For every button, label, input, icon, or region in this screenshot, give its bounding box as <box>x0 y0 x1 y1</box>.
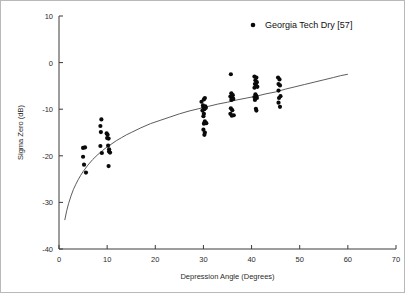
data-point <box>230 114 234 118</box>
legend-label: Georgia Tech Dry [57] <box>265 20 352 30</box>
axis-titles: Depression Angle (Degrees)Sigma Zero (dB… <box>16 104 275 281</box>
data-point <box>278 83 282 87</box>
x-tick-label: 60 <box>344 255 352 264</box>
x-axis-title: Depression Angle (Degrees) <box>180 272 275 281</box>
data-point <box>277 96 281 100</box>
y-axis-title: Sigma Zero (dB) <box>16 104 25 160</box>
y-tick-label: -40 <box>42 245 53 254</box>
x-tick-label: 20 <box>151 255 159 264</box>
data-point <box>106 136 110 140</box>
plot-area: 010203040506070100-10-20-30-40 Georgia T… <box>1 1 406 294</box>
x-tick-label: 30 <box>199 255 207 264</box>
data-point <box>99 117 103 121</box>
y-tick-label: 0 <box>49 59 53 68</box>
data-point <box>253 98 257 102</box>
y-tick-label: 10 <box>45 12 53 21</box>
data-point <box>82 163 86 167</box>
data-point <box>231 97 235 101</box>
data-point <box>108 150 112 154</box>
x-tick-label: 10 <box>103 255 111 264</box>
data-point <box>276 88 280 92</box>
data-point <box>81 155 85 159</box>
y-tick-label: -20 <box>42 152 53 161</box>
x-tick-label: 50 <box>296 255 304 264</box>
legend-marker-icon <box>251 23 256 28</box>
axis-ticks <box>59 16 396 249</box>
data-point <box>204 121 208 125</box>
data-point <box>106 143 110 147</box>
axes <box>59 16 396 249</box>
data-point <box>202 133 206 137</box>
data-point <box>106 164 110 168</box>
data-point <box>98 124 102 128</box>
data-point <box>98 144 102 148</box>
y-tick-label: -10 <box>42 105 53 114</box>
data-point <box>204 106 208 110</box>
chart-figure: 010203040506070100-10-20-30-40 Georgia T… <box>0 0 405 293</box>
data-point <box>277 77 281 81</box>
x-tick-label: 70 <box>392 255 400 264</box>
data-point <box>99 130 103 134</box>
legend: Georgia Tech Dry [57] <box>251 20 353 30</box>
x-tick-label: 40 <box>247 255 255 264</box>
data-point <box>278 105 282 109</box>
scatter-chart-svg: 010203040506070100-10-20-30-40 Georgia T… <box>1 1 406 294</box>
data-point <box>100 151 104 155</box>
data-point <box>230 108 234 112</box>
data-point <box>203 96 207 100</box>
data-point <box>255 85 259 89</box>
data-points <box>81 72 283 175</box>
data-point <box>83 145 87 149</box>
data-point <box>229 72 233 76</box>
data-point <box>201 114 205 118</box>
axis-tick-labels: 010203040506070100-10-20-30-40 <box>42 12 400 264</box>
data-point <box>276 101 280 105</box>
data-point <box>84 170 88 174</box>
y-tick-label: -30 <box>42 198 53 207</box>
x-tick-label: 0 <box>57 255 61 264</box>
axis-spine <box>59 16 396 249</box>
data-point <box>254 109 258 113</box>
